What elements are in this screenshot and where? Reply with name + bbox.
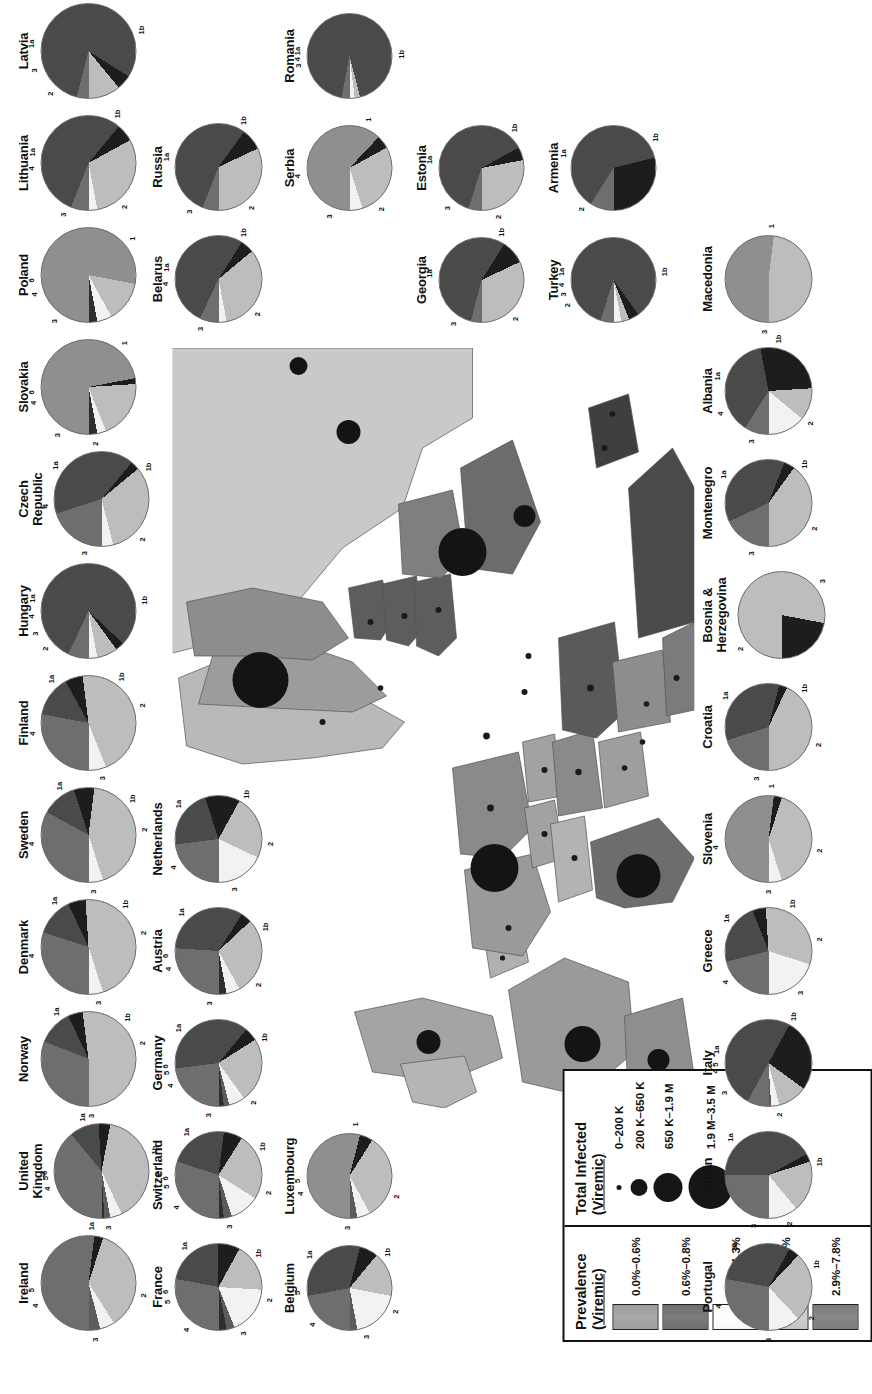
- country-name: Lithuania: [16, 104, 30, 222]
- pie-holder: 1a1b2345: [300, 1234, 400, 1342]
- genotype-pie[interactable]: [40, 899, 136, 995]
- genotype-slice-label: 2: [577, 207, 585, 211]
- region-ireland: [400, 1056, 476, 1108]
- genotype-slice-label: 4: [43, 1187, 51, 1191]
- genotype-slice-label: 2: [267, 842, 275, 846]
- country-pie-cell: Belarus1a1b234: [150, 224, 270, 334]
- genotype-slice-label: 4: [293, 57, 301, 61]
- country-pie-cell: Ireland1a2345: [16, 1224, 144, 1342]
- country-pie-cell: Turkey1a1b234: [546, 226, 664, 334]
- country-name: Belarus: [150, 224, 164, 334]
- country-name: Latvia: [16, 0, 30, 110]
- prevalence-swatch: [612, 1304, 658, 1330]
- genotype-pie[interactable]: [724, 1131, 812, 1219]
- genotype-pie[interactable]: [40, 675, 136, 771]
- genotype-slice-label: 6: [27, 278, 35, 282]
- genotype-slice-label: 1b: [128, 794, 136, 803]
- genotype-pie[interactable]: [570, 237, 656, 323]
- genotype-slice-label: 4: [169, 865, 177, 869]
- genotype-pie[interactable]: [174, 1019, 262, 1107]
- pie-holder: 1a1b234: [34, 888, 144, 1006]
- genotype-slice-label: 3: [752, 777, 760, 781]
- genotype-pie[interactable]: [306, 125, 392, 211]
- genotype-pie[interactable]: [40, 3, 136, 99]
- genotype-pie[interactable]: [174, 795, 262, 883]
- genotype-pie[interactable]: [438, 125, 524, 211]
- country-name: Georgia: [414, 226, 428, 334]
- genotype-slice-label: 1a: [27, 40, 35, 48]
- genotype-pie[interactable]: [174, 235, 262, 323]
- genotype-slice-label: 1: [364, 118, 372, 122]
- genotype-pie[interactable]: [40, 227, 136, 323]
- genotype-pie[interactable]: [40, 787, 136, 883]
- prevalence-label: 0.6%–0.8%: [679, 1237, 691, 1296]
- genotype-pie[interactable]: [724, 1243, 812, 1331]
- genotype-pie[interactable]: [306, 13, 392, 99]
- country-pie-cell: Netherlands1a1b234: [150, 784, 270, 894]
- genotype-slice-label: 4: [183, 1328, 191, 1332]
- genotype-pie[interactable]: [724, 683, 812, 771]
- country-name: Croatia: [700, 672, 714, 782]
- pie-holder: 1a1b234: [34, 664, 144, 782]
- legend-total-infected-row: 650 K–1.9 M: [653, 1081, 682, 1215]
- genotype-slice-label: 2: [140, 1293, 148, 1297]
- genotype-pie[interactable]: [737, 571, 825, 659]
- genotype-slice-label: 3: [749, 1224, 757, 1228]
- genotype-slice-label: 4: [296, 1192, 304, 1196]
- genotype-slice-label: 1b: [145, 463, 153, 472]
- genotype-pie[interactable]: [724, 1019, 812, 1107]
- genotype-pie[interactable]: [40, 339, 136, 435]
- genotype-slice-label: 1b: [383, 1248, 391, 1257]
- genotype-pie[interactable]: [174, 1243, 262, 1331]
- country-name: Albania: [700, 336, 714, 446]
- genotype-slice-label: 3: [50, 319, 58, 323]
- pie-holder: 1a2345: [34, 1224, 144, 1342]
- genotype-slice-label: 3: [343, 1226, 351, 1230]
- country-name: Greece: [700, 896, 714, 1006]
- genotype-slice-label: 1a: [426, 156, 434, 164]
- genotype-slice-label: 3: [761, 330, 769, 334]
- genotype-slice-label: 3: [294, 64, 302, 68]
- genotype-slice-label: 3: [204, 1113, 212, 1117]
- genotype-pie[interactable]: [53, 451, 149, 547]
- genotype-pie[interactable]: [724, 347, 812, 435]
- genotype-slice-label: 1a: [28, 594, 36, 602]
- genotype-pie[interactable]: [40, 115, 136, 211]
- genotype-pie[interactable]: [174, 1131, 262, 1219]
- pie-holder: 1234: [300, 114, 400, 222]
- genotype-pie[interactable]: [724, 907, 812, 995]
- genotype-pie[interactable]: [724, 235, 812, 323]
- pie-holder: 32: [731, 560, 833, 670]
- genotype-slice-label: 1b: [140, 596, 148, 605]
- bubble-slot: [653, 1159, 682, 1215]
- genotype-pie[interactable]: [53, 1123, 149, 1219]
- genotype-slice-label: 1b: [660, 267, 668, 276]
- country-name: Macedonia: [700, 224, 714, 334]
- genotype-pie[interactable]: [570, 125, 656, 211]
- genotype-slice-label: 1a: [721, 692, 729, 700]
- genotype-slice-label: 2: [814, 743, 822, 747]
- genotype-pie[interactable]: [306, 1133, 392, 1219]
- pie-holder: 13: [718, 224, 820, 334]
- pie-holder: 1a1b234: [34, 776, 144, 894]
- genotype-pie[interactable]: [40, 1235, 136, 1331]
- genotype-pie[interactable]: [724, 795, 812, 883]
- country-name: Netherlands: [150, 784, 164, 894]
- genotype-slice-label: 4: [28, 842, 36, 846]
- genotype-slice-label: 2: [810, 526, 818, 530]
- genotype-slice-label: 1b: [812, 1260, 820, 1269]
- genotype-pie[interactable]: [174, 907, 262, 995]
- genotype-pie[interactable]: [724, 459, 812, 547]
- country-pie-cell: Hungary1a1b234: [16, 552, 144, 670]
- genotype-slice-label: 2: [139, 1041, 147, 1045]
- country-pie-cell: Romania1a1b34: [282, 2, 400, 110]
- genotype-pie[interactable]: [40, 1011, 136, 1107]
- genotype-slice-label: 4: [29, 401, 37, 405]
- genotype-pie[interactable]: [40, 563, 136, 659]
- genotype-pie[interactable]: [438, 237, 524, 323]
- country-pie-cell: Lithuania1a1b234: [16, 104, 144, 222]
- genotype-slice-label: 1a: [174, 800, 182, 808]
- genotype-slice-label: 3: [196, 327, 204, 331]
- genotype-pie[interactable]: [174, 123, 262, 211]
- genotype-pie[interactable]: [306, 1245, 392, 1331]
